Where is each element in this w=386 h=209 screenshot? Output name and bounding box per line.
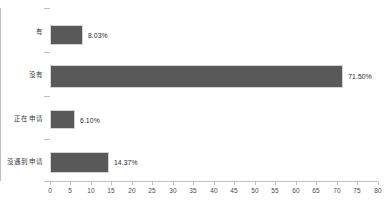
- value-tick-label-7: 35: [189, 187, 196, 194]
- value-tick-14: [337, 182, 338, 185]
- value-axis-line: [0, 8, 1, 181]
- value-tick-4: [132, 182, 133, 185]
- value-tick-5: [152, 182, 153, 185]
- bar-value-label-2: 6.10%: [80, 117, 100, 124]
- bar-3: [50, 152, 109, 173]
- value-tick-0: [50, 182, 51, 185]
- value-tick-12: [296, 182, 297, 185]
- value-tick-label-6: 30: [169, 187, 176, 194]
- value-tick-label-8: 40: [210, 187, 217, 194]
- value-tick-13: [316, 182, 317, 185]
- value-tick-6: [173, 182, 174, 185]
- value-tick-label-1: 5: [68, 187, 72, 194]
- value-tick-11: [275, 182, 276, 185]
- value-tick-label-4: 20: [128, 187, 135, 194]
- value-tick-1: [70, 182, 71, 185]
- category-label-1: 没有: [29, 69, 43, 79]
- value-tick-label-5: 25: [148, 187, 155, 194]
- value-tick-label-9: 45: [230, 187, 237, 194]
- bar-0: [50, 25, 83, 45]
- value-tick-3: [111, 182, 112, 185]
- value-tick-8: [214, 182, 215, 185]
- bar-value-label-0: 8.03%: [88, 32, 108, 39]
- value-tick-label-0: 0: [48, 187, 52, 194]
- category-label-3: 没遇到申请: [7, 156, 43, 166]
- value-tick-label-16: 80: [374, 187, 381, 194]
- value-tick-label-3: 15: [107, 187, 114, 194]
- bar-value-label-3: 14.37%: [114, 159, 138, 166]
- bar-1: [50, 65, 343, 88]
- bar-value-label-1: 71.50%: [348, 73, 372, 80]
- bar-2: [50, 110, 75, 129]
- value-tick-7: [193, 182, 194, 185]
- value-tick-9: [234, 182, 235, 185]
- category-label-2: 正在申请: [14, 113, 43, 123]
- value-tick-10: [255, 182, 256, 185]
- value-tick-label-14: 70: [333, 187, 340, 194]
- value-tick-label-10: 50: [251, 187, 258, 194]
- value-tick-16: [378, 182, 379, 185]
- bar-chart: 有 没有 正在申请 没遇到申请 8.03% 71.50% 6.10% 14.37…: [0, 0, 386, 209]
- value-tick-label-15: 75: [353, 187, 360, 194]
- value-tick-15: [357, 182, 358, 185]
- value-tick-label-13: 65: [312, 187, 319, 194]
- category-label-0: 有: [36, 26, 43, 36]
- value-tick-label-2: 10: [87, 187, 94, 194]
- value-tick-label-12: 60: [292, 187, 299, 194]
- value-tick-label-11: 55: [271, 187, 278, 194]
- category-axis-labels: 有 没有 正在申请 没遇到申请: [0, 0, 43, 209]
- value-tick-2: [91, 182, 92, 185]
